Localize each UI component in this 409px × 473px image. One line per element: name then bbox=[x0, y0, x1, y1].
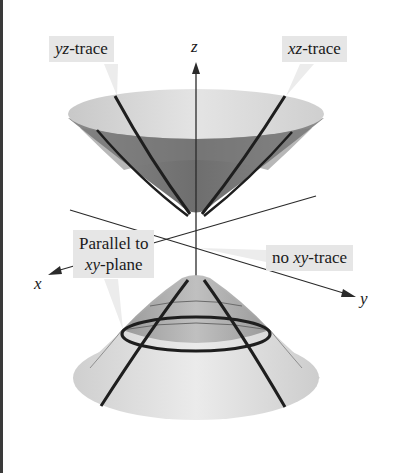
no-xy-trace-label: no xy-trace bbox=[266, 245, 353, 271]
parallel-label-italic: xy bbox=[85, 255, 100, 274]
yz-trace-label: yz-trace bbox=[49, 36, 114, 62]
no-xy-label-italic: xy bbox=[293, 248, 308, 267]
surface-graphic bbox=[0, 0, 409, 473]
x-axis-label: x bbox=[34, 274, 42, 294]
xz-trace-label-rest: -trace bbox=[302, 39, 341, 58]
xz-trace-label-italic: xz bbox=[288, 39, 302, 58]
parallel-label-rest: -plane bbox=[100, 255, 142, 274]
y-axis-arrowhead bbox=[341, 289, 356, 297]
yz-trace-label-rest: -trace bbox=[69, 39, 108, 58]
xz-label-pointer bbox=[286, 64, 314, 96]
parallel-label-line1: Parallel to bbox=[79, 233, 148, 254]
parallel-label-line2: xy-plane bbox=[79, 254, 148, 275]
parallel-label-pointer bbox=[104, 279, 123, 330]
xz-trace-label: xz-trace bbox=[282, 36, 347, 62]
no-xy-label-rest: -trace bbox=[308, 248, 347, 267]
yz-label-pointer bbox=[104, 64, 118, 96]
z-axis-label: z bbox=[191, 37, 198, 57]
y-axis-label: y bbox=[360, 289, 368, 309]
lower-sheet-base bbox=[73, 336, 319, 420]
no-xy-label-prefix: no bbox=[272, 248, 293, 267]
x-axis-arrowhead bbox=[48, 266, 62, 275]
hyperboloid-figure: yz-trace xz-trace Parallel to xy-plane n… bbox=[0, 0, 409, 473]
parallel-to-xy-plane-label: Parallel to xy-plane bbox=[73, 230, 154, 278]
z-axis-arrowhead bbox=[192, 62, 200, 74]
yz-trace-label-italic: yz bbox=[55, 39, 69, 58]
